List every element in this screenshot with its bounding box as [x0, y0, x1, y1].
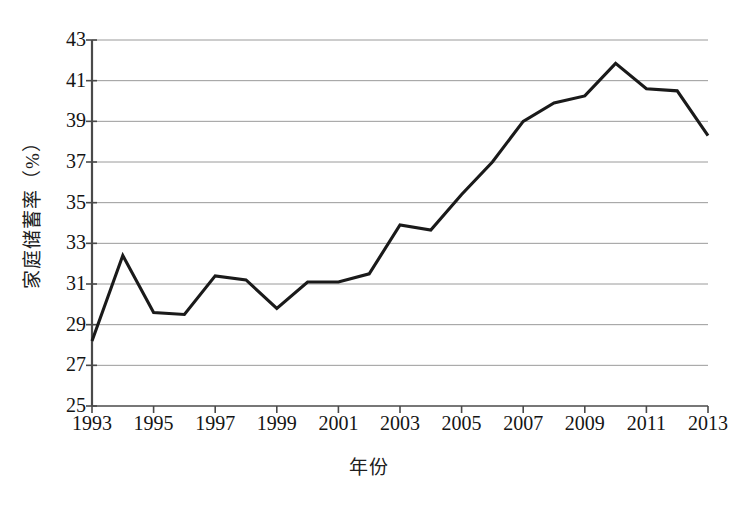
data-series-line	[92, 63, 708, 341]
x-axis-tick-label: 2007	[503, 412, 543, 434]
chart-figure: 家庭储蓄率（%） 43413937353331292725 1993199519…	[0, 0, 737, 505]
x-axis-tick-labels: 1993199519971999200120032005200720092011…	[0, 412, 737, 442]
x-axis-tick-label: 2013	[688, 412, 728, 434]
x-axis-tick-label: 2011	[627, 412, 666, 434]
gridlines	[92, 40, 708, 365]
x-axis-tick-label: 2009	[565, 412, 605, 434]
x-axis-tick-label: 2001	[318, 412, 358, 434]
x-axis-tick-label: 2003	[380, 412, 420, 434]
x-axis-tick-label: 1993	[72, 412, 112, 434]
x-axis-tick-label: 1995	[134, 412, 174, 434]
x-axis-tick-label: 2005	[442, 412, 482, 434]
x-axis-tick-label: 1997	[195, 412, 235, 434]
x-axis-tick-label: 1999	[257, 412, 297, 434]
x-axis-title: 年份	[0, 452, 737, 479]
